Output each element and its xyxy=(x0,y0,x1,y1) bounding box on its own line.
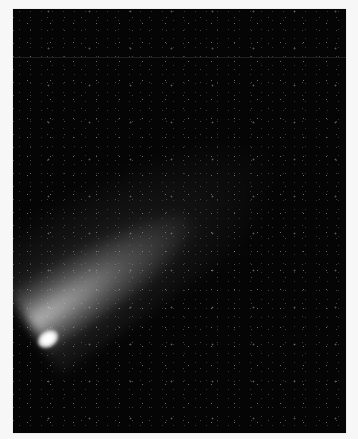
scan-line-artifact xyxy=(13,57,346,58)
comet-photo xyxy=(13,9,346,433)
